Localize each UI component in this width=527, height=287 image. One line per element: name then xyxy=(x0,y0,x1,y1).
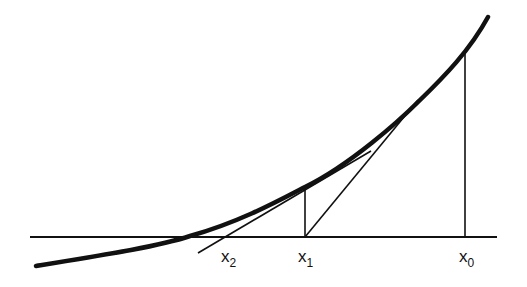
label-x2: x2 xyxy=(221,247,237,270)
newton-method-diagram: x2 x1 x0 xyxy=(0,0,527,287)
function-curve xyxy=(36,17,488,266)
label-x1: x1 xyxy=(298,247,314,270)
label-x0: x0 xyxy=(459,247,475,270)
